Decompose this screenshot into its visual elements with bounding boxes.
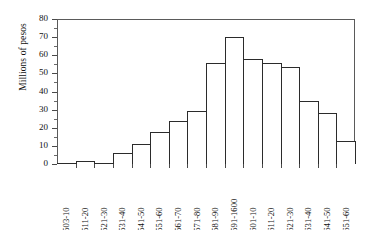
y-tick-label: 80 — [39, 13, 48, 23]
y-tick-label: 20 — [39, 122, 48, 132]
x-label-cell: 1651-60 — [336, 170, 355, 228]
x-label-cell: 1551-60 — [150, 170, 169, 228]
bar — [299, 101, 319, 164]
x-tick-label: 1571-80 — [192, 166, 202, 230]
x-label-cell: 1541-50 — [132, 170, 151, 228]
x-tick-label: 1531-40 — [117, 166, 127, 230]
chart-figure: Millions of pesos 01020304050607080 1503… — [0, 0, 374, 230]
x-tick-label: 1561-70 — [173, 166, 183, 230]
x-label-cell: 1503-10 — [57, 170, 76, 228]
y-axis-ticks: 01020304050607080 — [0, 0, 57, 230]
x-label-cell: 1571-80 — [187, 170, 206, 228]
y-tick-label: 10 — [39, 140, 48, 150]
bar — [169, 121, 189, 165]
x-label-cell: 1641-50 — [318, 170, 337, 228]
x-tick-label: 1581-90 — [210, 166, 220, 230]
x-tick-label: 1641-50 — [322, 166, 332, 230]
x-label-cell: 1521-30 — [94, 170, 113, 228]
x-label-cell: 1581-90 — [206, 170, 225, 228]
x-tick-label: 1541-50 — [136, 166, 146, 230]
x-tick-label: 1651-60 — [341, 166, 351, 230]
x-label-cell: 1601-10 — [243, 170, 262, 228]
x-tick-label: 1621-30 — [285, 166, 295, 230]
bar — [150, 132, 170, 164]
x-label-cell: 1531-40 — [113, 170, 132, 228]
x-tick-label: 1551-60 — [154, 166, 164, 230]
bar — [206, 63, 226, 164]
bar — [243, 59, 263, 164]
bar — [318, 113, 338, 164]
x-tick-label: 1521-30 — [99, 166, 109, 230]
x-tick-label: 1631-40 — [303, 166, 313, 230]
x-label-cell: 1611-20 — [262, 170, 281, 228]
bar-series — [57, 19, 355, 164]
bar — [132, 144, 152, 164]
x-tick-label: 1611-20 — [266, 166, 276, 230]
x-axis-labels: 1503-101511-201521-301531-401541-501551-… — [57, 170, 355, 228]
x-tick-label: 1503-10 — [61, 166, 71, 230]
x-label-cell: 1621-30 — [281, 170, 300, 228]
bar — [113, 153, 133, 164]
y-tick-label: 50 — [39, 67, 48, 77]
x-label-cell: 1561-70 — [169, 170, 188, 228]
y-tick-label: 30 — [39, 104, 48, 114]
y-tick-label: 0 — [44, 158, 49, 168]
x-tick-label: 1591-1600 — [229, 166, 239, 230]
bar — [187, 111, 207, 164]
bar — [262, 63, 282, 164]
x-label-cell: 1511-20 — [76, 170, 95, 228]
y-tick-label: 70 — [39, 31, 48, 41]
bar — [225, 37, 245, 164]
x-tick-label: 1511-20 — [80, 166, 90, 230]
bar — [336, 141, 356, 164]
x-label-cell: 1631-40 — [299, 170, 318, 228]
x-label-cell: 1591-1600 — [225, 170, 244, 228]
y-tick-label: 60 — [39, 49, 48, 59]
bar — [281, 67, 301, 164]
x-tick-label: 1601-10 — [248, 166, 258, 230]
y-tick-label: 40 — [39, 86, 48, 96]
